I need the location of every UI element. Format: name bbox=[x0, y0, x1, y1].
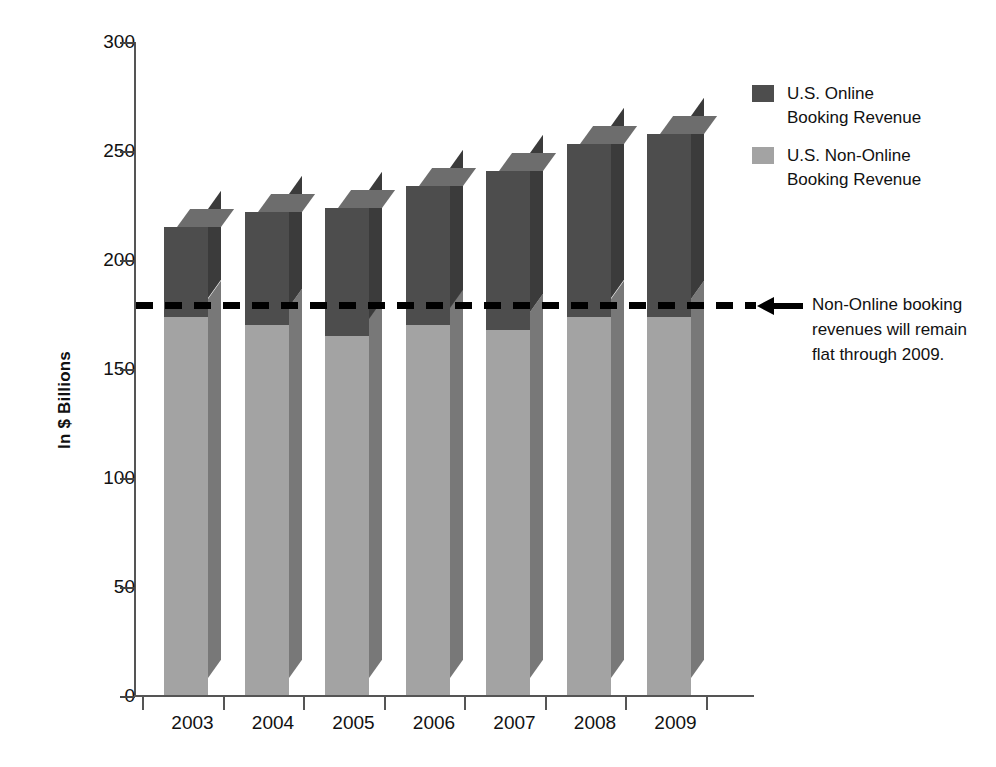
x-tick-mark bbox=[303, 696, 305, 710]
y-tick-mark bbox=[120, 478, 135, 480]
bar-segment-online-front bbox=[325, 208, 369, 337]
legend-label-line-1: U.S. Non-Online bbox=[787, 144, 921, 168]
bar-2008[interactable] bbox=[567, 0, 624, 696]
legend-label: U.S. Non-OnlineBooking Revenue bbox=[787, 144, 921, 192]
chart-canvas: In $ Billions 300250200150100500 2003200… bbox=[0, 0, 996, 767]
bar-2006[interactable] bbox=[406, 0, 463, 696]
legend-swatch-icon bbox=[752, 85, 774, 102]
x-tick-label-2009: 2009 bbox=[636, 712, 716, 734]
bar-segment-nonline-front bbox=[406, 325, 450, 696]
bar-segment-nonline-front bbox=[245, 325, 289, 696]
bar-2009[interactable] bbox=[647, 0, 704, 696]
y-tick-mark bbox=[120, 260, 135, 262]
bar-segment-nonline-side bbox=[691, 280, 704, 678]
y-tick-mark bbox=[120, 151, 135, 153]
x-tick-label-2003: 2003 bbox=[153, 712, 233, 734]
chart-legend: U.S. OnlineBooking RevenueU.S. Non-Onlin… bbox=[752, 82, 992, 206]
annotation-line-2: revenues will remain bbox=[812, 317, 992, 342]
y-tick-mark bbox=[120, 369, 135, 371]
bar-2003[interactable] bbox=[164, 0, 221, 696]
x-tick-mark bbox=[223, 696, 225, 710]
bar-2004[interactable] bbox=[245, 0, 302, 696]
bar-top-face bbox=[325, 190, 382, 208]
legend-item-0[interactable]: U.S. OnlineBooking Revenue bbox=[752, 82, 992, 130]
bar-segment-nonline-front bbox=[164, 317, 208, 696]
y-axis-title: In $ Billions bbox=[55, 300, 75, 500]
bar-segment-online-front bbox=[567, 144, 611, 316]
x-tick-mark bbox=[625, 696, 627, 710]
legend-label-line-1: U.S. Online bbox=[787, 82, 921, 106]
bar-segment-nonline-side bbox=[208, 280, 221, 678]
x-axis-line bbox=[134, 695, 754, 697]
x-tick-label-2008: 2008 bbox=[555, 712, 635, 734]
bar-segment-nonline-front bbox=[325, 336, 369, 696]
bar-top-face-plane bbox=[258, 194, 315, 212]
x-tick-mark bbox=[464, 696, 466, 710]
y-tick-mark bbox=[120, 696, 135, 698]
y-tick-mark bbox=[120, 587, 135, 589]
bar-top-face-plane bbox=[338, 190, 395, 208]
bar-2005[interactable] bbox=[325, 0, 382, 696]
x-tick-mark bbox=[384, 696, 386, 710]
bar-top-face bbox=[647, 116, 704, 134]
bar-segment-online-front bbox=[647, 134, 691, 317]
legend-swatch-icon bbox=[752, 147, 774, 164]
bar-segment-nonline-front bbox=[486, 330, 530, 696]
bar-top-face bbox=[406, 168, 463, 186]
bar-top-face bbox=[164, 209, 221, 227]
annotation-text: Non-Online booking revenues will remain … bbox=[812, 292, 992, 367]
bar-segment-nonline-side bbox=[530, 294, 543, 678]
annotation-line-3: flat through 2009. bbox=[812, 342, 992, 367]
reference-line-dashed bbox=[136, 302, 756, 309]
legend-item-1[interactable]: U.S. Non-OnlineBooking Revenue bbox=[752, 144, 992, 192]
bar-top-face-plane bbox=[499, 153, 556, 171]
x-tick-mark bbox=[142, 696, 144, 710]
legend-label: U.S. OnlineBooking Revenue bbox=[787, 82, 921, 130]
bar-segment-nonline-side bbox=[611, 280, 624, 678]
bar-top-face-plane bbox=[580, 126, 637, 144]
bar-2007[interactable] bbox=[486, 0, 543, 696]
bar-top-face bbox=[567, 126, 624, 144]
bar-segment-nonline-front bbox=[647, 317, 691, 696]
bar-segment-nonline-side bbox=[369, 300, 382, 678]
x-tick-label-2005: 2005 bbox=[314, 712, 394, 734]
legend-label-line-2: Booking Revenue bbox=[787, 106, 921, 130]
x-tick-mark bbox=[706, 696, 708, 710]
bar-top-face-plane bbox=[419, 168, 476, 186]
bar-top-face-plane bbox=[177, 209, 234, 227]
y-tick-mark bbox=[120, 42, 135, 44]
bar-segment-nonline-side bbox=[289, 289, 302, 678]
legend-label-line-2: Booking Revenue bbox=[787, 168, 921, 192]
x-tick-mark bbox=[545, 696, 547, 710]
bar-top-face-plane bbox=[660, 116, 717, 134]
x-tick-label-2007: 2007 bbox=[475, 712, 555, 734]
annotation-line-1: Non-Online booking bbox=[812, 292, 992, 317]
x-tick-label-2004: 2004 bbox=[233, 712, 313, 734]
bar-segment-nonline-side bbox=[450, 289, 463, 678]
annotation-arrow-icon bbox=[757, 296, 803, 316]
bar-top-face bbox=[245, 194, 302, 212]
bar-segment-online-side bbox=[208, 191, 221, 299]
x-tick-label-2006: 2006 bbox=[394, 712, 474, 734]
bar-top-face bbox=[486, 153, 543, 171]
bar-segment-nonline-front bbox=[567, 317, 611, 696]
